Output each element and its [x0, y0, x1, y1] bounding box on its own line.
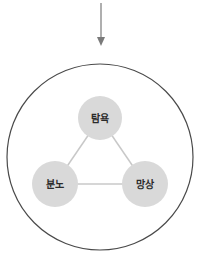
node-label-anger: 분노 [46, 179, 64, 190]
outer-circle [7, 64, 193, 250]
diagram-canvas: 탐욕 분노 망상 [0, 0, 200, 264]
node-anger: 분노 [32, 161, 78, 207]
node-delusion: 망상 [122, 161, 168, 207]
node-label-greed: 탐욕 [91, 113, 109, 124]
node-greed: 탐욕 [78, 96, 122, 140]
node-label-delusion: 망상 [136, 178, 155, 190]
down-arrow-icon [97, 3, 105, 46]
